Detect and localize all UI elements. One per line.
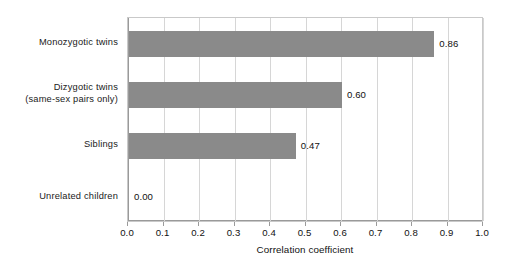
category-label: Monozygotic twins [39, 37, 118, 48]
x-axis-tick-label: 0.7 [369, 226, 383, 239]
category-label-line: Unrelated children [39, 191, 118, 202]
bar-value-label: 0.47 [301, 133, 320, 159]
bar [129, 133, 296, 159]
category-label: Siblings [84, 139, 118, 150]
x-axis-tick-label: 0.1 [156, 226, 170, 239]
category-label-line: Siblings [84, 139, 118, 150]
category-label-line: Dizygotic twins [25, 82, 118, 93]
bar-value-label: 0.86 [439, 31, 458, 57]
x-axis-tick-label: 0.2 [191, 226, 205, 239]
x-axis-tick-label: 1.0 [475, 226, 489, 239]
category-label-line: Monozygotic twins [39, 37, 118, 48]
x-axis-tick-label: 0.0 [120, 226, 134, 239]
correlation-coefficient-bar-chart: Monozygotic twinsDizygotic twins(same-se… [0, 0, 514, 265]
x-axis-title: Correlation coefficient [127, 243, 483, 256]
bar-value-label: 0.00 [134, 184, 153, 210]
x-axis-tick-label: 0.9 [440, 226, 454, 239]
category-label: Dizygotic twins(same-sex pairs only) [25, 82, 118, 105]
category-label-line: (same-sex pairs only) [25, 94, 118, 105]
x-axis-tick-labels: 0.00.10.20.30.40.50.60.70.80.91.0 [127, 226, 483, 240]
category-axis-labels: Monozygotic twinsDizygotic twins(same-se… [0, 17, 123, 222]
plot-area: 0.860.600.470.00 [127, 17, 483, 222]
x-axis-tick-label: 0.8 [404, 226, 418, 239]
bar [129, 31, 434, 57]
gridline [483, 18, 484, 221]
x-axis-tick-label: 0.3 [227, 226, 241, 239]
x-axis-tick-label: 0.5 [298, 226, 312, 239]
category-label: Unrelated children [39, 191, 118, 202]
x-axis-tick-label: 0.6 [333, 226, 347, 239]
x-axis-tick-label: 0.4 [262, 226, 276, 239]
bar [129, 82, 342, 108]
bar-value-label: 0.60 [347, 82, 366, 108]
